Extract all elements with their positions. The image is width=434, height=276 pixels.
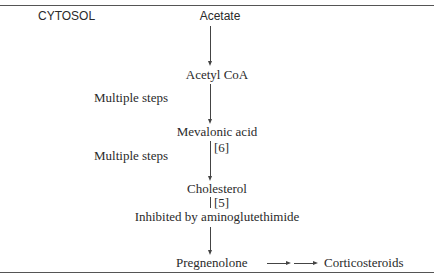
node-corticosteroids: Corticosteroids <box>324 255 403 270</box>
multiple-steps-label-2: Multiple steps <box>94 148 168 163</box>
node-acetyl-coa: Acetyl CoA <box>186 67 248 82</box>
node-acetate: Acetate <box>200 9 241 24</box>
arrowhead-icon <box>286 261 291 265</box>
inhibition-note: Inhibited by aminoglutethimide <box>135 209 300 224</box>
arrowhead-icon <box>208 61 212 66</box>
arrow-cholesterol-to-pregnenolone <box>210 227 211 251</box>
compartment-label: CYTOSOL <box>38 9 95 24</box>
multiple-steps-label-1: Multiple steps <box>94 90 168 105</box>
arrow-segment-1 <box>267 263 287 264</box>
arrow-mevalonic-acid-to-cholesterol <box>210 141 211 177</box>
arrow-segment-2 <box>294 263 314 264</box>
reference-6: [6] <box>214 140 229 155</box>
node-mevalonic-acid: Mevalonic acid <box>177 124 258 139</box>
arrowhead-icon <box>313 261 318 265</box>
top-rule <box>0 5 434 6</box>
bottom-rule <box>0 272 434 273</box>
node-cholesterol: Cholesterol <box>187 181 247 196</box>
node-pregnenolone: Pregnenolone <box>176 255 247 270</box>
cholesterol-ref-tick <box>210 197 211 208</box>
arrow-acetate-to-acetyl-coa <box>210 26 211 62</box>
arrow-acetyl-coa-to-mevalonic-acid <box>210 84 211 120</box>
reference-5: [5] <box>214 195 229 210</box>
